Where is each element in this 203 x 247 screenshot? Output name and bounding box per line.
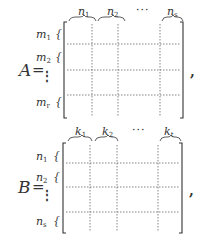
column-label: k1 — [75, 126, 86, 139]
right-bracket-icon — [180, 22, 183, 118]
column-label: kt — [164, 126, 174, 139]
column-label: k2 — [102, 126, 113, 139]
row-label: m1 — [36, 29, 51, 42]
matrix-a-grid — [67, 24, 180, 116]
matrix-a-name: A — [19, 62, 31, 79]
row-brace-icon: { — [53, 215, 60, 226]
matrix-graphics — [0, 0, 203, 247]
left-bracket-icon — [64, 22, 67, 118]
row-ellipsis: ⋮ — [41, 189, 53, 201]
row-label: mr — [36, 97, 50, 110]
row-ellipsis: ⋮ — [41, 70, 53, 82]
matrix-b-name: B — [18, 179, 31, 196]
row-brace-icon: { — [53, 150, 60, 161]
row-label: n1 — [36, 151, 48, 164]
trailing-comma: , — [189, 183, 194, 197]
right-bracket-icon — [179, 143, 182, 233]
column-ellipsis: ··· — [136, 5, 150, 16]
column-label: ns — [167, 6, 178, 19]
column-label: n1 — [78, 6, 90, 19]
row-brace-icon: { — [53, 171, 60, 182]
matrix-b-graphics — [63, 135, 182, 233]
row-label: n2 — [36, 172, 48, 185]
row-brace-icon: { — [55, 96, 62, 107]
row-label: ns — [36, 216, 47, 229]
row-label: m2 — [36, 52, 51, 65]
matrix-a-graphics — [64, 15, 183, 118]
row-brace-icon: { — [55, 28, 62, 39]
trailing-comma: , — [190, 64, 195, 78]
left-bracket-icon — [63, 143, 66, 233]
column-ellipsis: ··· — [132, 125, 146, 136]
matrix-b-grid — [66, 145, 179, 231]
row-brace-icon: { — [55, 51, 62, 62]
column-label: n2 — [107, 6, 119, 19]
